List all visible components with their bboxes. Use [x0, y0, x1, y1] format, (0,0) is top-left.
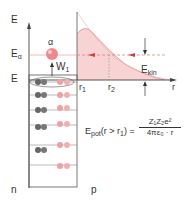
ekin-arrow-top-icon	[143, 50, 147, 55]
nucleon-levels	[29, 79, 77, 169]
formula-fraction: Z₁Z₂e² 4πε₀ · r	[139, 118, 181, 137]
formula-lhs: Epot(r > r1) =	[85, 127, 135, 137]
region-n-label: n	[11, 185, 17, 195]
formula-numerator: Z₁Z₂e²	[139, 118, 181, 128]
energy-axis-label: E	[11, 15, 18, 25]
formula-denominator: 4πε₀ · r	[139, 128, 181, 137]
w1-label: W1	[56, 62, 69, 73]
w1-arrow-icon	[50, 62, 54, 67]
diagram-canvas	[0, 0, 190, 202]
energy-axis-arrow-icon	[27, 22, 31, 29]
well-energy-label: E	[11, 74, 18, 84]
r2-label: r2	[108, 83, 115, 93]
r1-label: r1	[79, 83, 86, 93]
ekin-label: Ekin	[141, 65, 157, 76]
alpha-highlight	[48, 50, 52, 54]
alpha-particle	[46, 48, 58, 60]
alpha-particle-label: α	[48, 38, 53, 47]
r-axis-label: r	[172, 83, 175, 92]
ekin-arrow-bottom-icon	[143, 81, 147, 86]
potential-well-box	[29, 75, 77, 187]
alpha-energy-label: Eα	[11, 49, 22, 60]
region-p-label: p	[91, 185, 97, 195]
tunnel-arrow-icon-2	[128, 53, 135, 57]
